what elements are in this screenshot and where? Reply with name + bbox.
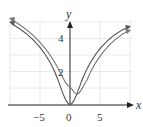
x-axis-label: x [135,98,142,112]
y-tick-2: 2 [58,66,64,78]
plot: −5 0 5 2 4 y x [0,0,143,127]
y-axis [67,21,73,105]
x-tick-neg5: −5 [33,111,45,123]
x-axis-arrow-icon [127,102,134,108]
y-axis-label: y [65,7,72,21]
grid [10,20,132,105]
x-tick-5: 5 [97,111,103,123]
y-tick-4: 4 [58,32,64,44]
x-tick-0: 0 [66,111,72,123]
